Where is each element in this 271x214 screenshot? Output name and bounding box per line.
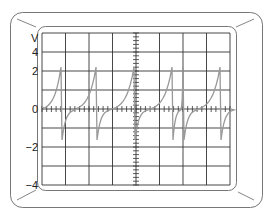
oscilloscope-display: V420−2−4 bbox=[0, 0, 271, 214]
y-unit-label: V bbox=[31, 32, 39, 44]
y-tick-label: −4 bbox=[25, 179, 38, 191]
waveform-trace bbox=[42, 67, 234, 140]
bevel-line-tr bbox=[236, 19, 254, 27]
y-tick-label: −2 bbox=[25, 141, 38, 153]
outer-bezel bbox=[11, 13, 263, 208]
axis-ticks bbox=[42, 33, 230, 185]
bevel-line-bl bbox=[17, 190, 36, 200]
y-tick-label: 0 bbox=[32, 103, 38, 115]
bevel-line-tl bbox=[17, 19, 36, 27]
y-tick-label: 4 bbox=[32, 46, 38, 58]
y-axis-labels: V420−2−4 bbox=[25, 32, 39, 191]
y-tick-label: 2 bbox=[32, 65, 38, 77]
bevel-line-br bbox=[238, 192, 254, 200]
